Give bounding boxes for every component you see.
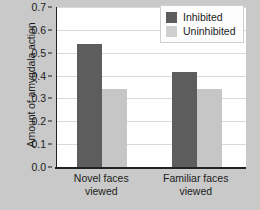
legend-item-inhibited: Inhibited	[166, 10, 236, 24]
x-category-label-line: Novel faces	[74, 172, 129, 185]
y-tick-mark	[48, 167, 52, 168]
y-tick-label: 0.6	[31, 24, 46, 36]
y-tick-mark	[48, 144, 52, 145]
y-tick-label: 0.1	[31, 138, 46, 150]
x-category-label: Familiar facesviewed	[163, 172, 228, 197]
legend-label-uninhibited: Uninhibited	[183, 25, 236, 37]
x-category-label-line: Familiar faces	[163, 172, 228, 185]
x-category-label-line: viewed	[74, 185, 129, 198]
y-tick-mark	[48, 75, 52, 76]
y-tick-mark	[48, 121, 52, 122]
y-axis-tick-labels: 0.00.10.20.30.40.50.60.7	[0, 0, 56, 210]
y-tick-label: 0.2	[31, 115, 46, 127]
bar	[102, 89, 127, 167]
legend-item-uninhibited: Uninhibited	[166, 24, 236, 38]
y-tick-mark	[48, 29, 52, 30]
y-tick-label: 0.4	[31, 70, 46, 82]
y-tick-label: 0.0	[31, 161, 46, 173]
x-axis-category-labels: Novel facesviewedFamiliar facesviewed	[56, 172, 245, 208]
legend-label-inhibited: Inhibited	[183, 11, 223, 23]
x-axis-line	[55, 167, 246, 169]
bar	[197, 89, 222, 167]
y-tick-mark	[48, 7, 52, 8]
y-tick-mark	[48, 52, 52, 53]
bar-chart-figure: Amount of amygdala action 0.00.10.20.30.…	[0, 0, 260, 210]
legend-swatch-icon-uninhibited	[166, 26, 177, 37]
y-tick-label: 0.5	[31, 47, 46, 59]
legend-swatch-icon-inhibited	[166, 12, 177, 23]
y-tick-label: 0.3	[31, 92, 46, 104]
x-category-label-line: viewed	[163, 185, 228, 198]
bar	[172, 72, 197, 167]
x-category-label: Novel facesviewed	[74, 172, 129, 197]
y-tick-label: 0.7	[31, 1, 46, 13]
y-tick-mark	[48, 98, 52, 99]
bar	[77, 44, 102, 167]
legend: Inhibited Uninhibited	[160, 5, 244, 43]
